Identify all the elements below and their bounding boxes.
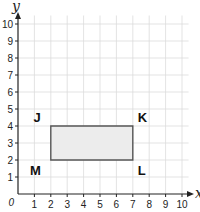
x-tick-label: 8: [146, 199, 152, 210]
x-tick-label: 4: [81, 199, 87, 210]
y-tick-label: 2: [7, 155, 13, 166]
vertex-label-l: L: [138, 163, 146, 178]
x-tick-label: 5: [97, 199, 103, 210]
x-tick-label: 6: [114, 199, 120, 210]
x-tick-label: 9: [163, 199, 169, 210]
origin-label: 0: [8, 197, 14, 208]
x-tick-label: 3: [64, 199, 70, 210]
y-tick-label: 9: [7, 36, 13, 47]
y-tick-label: 10: [2, 19, 14, 30]
y-tick-label: 1: [7, 172, 13, 183]
y-axis-title: y: [11, 0, 21, 14]
coordinate-plane: xy 12345678910123456789100 JKLM: [0, 0, 200, 212]
x-tick-label: 10: [176, 199, 188, 210]
y-tick-label: 7: [7, 70, 13, 81]
x-axis-arrow-icon: [187, 191, 194, 197]
y-tick-label: 5: [7, 104, 13, 115]
y-tick-label: 6: [7, 87, 13, 98]
rectangle-jklm: [51, 126, 133, 160]
tick-labels: 12345678910123456789100: [2, 19, 188, 211]
x-axis-title: x: [195, 185, 200, 201]
x-tick-label: 1: [32, 199, 38, 210]
vertex-label-j: J: [34, 110, 41, 125]
grid-lines: [18, 16, 189, 195]
x-tick-label: 2: [48, 199, 54, 210]
y-tick-label: 8: [7, 53, 13, 64]
y-tick-label: 3: [7, 138, 13, 149]
vertex-label-k: K: [138, 110, 148, 125]
x-tick-label: 7: [130, 199, 136, 210]
y-tick-label: 4: [7, 121, 13, 132]
vertex-label-m: M: [30, 163, 41, 178]
